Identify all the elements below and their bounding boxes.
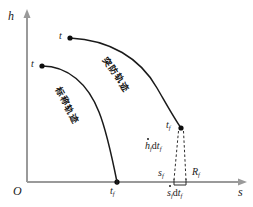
x-axis (27, 179, 247, 186)
upper-curve-tf-label: tf (166, 120, 171, 131)
tf-axis-subscript: f (113, 190, 115, 197)
s-f-subscript: f (162, 172, 164, 179)
y-axis (24, 9, 31, 182)
marker-upper-end-tf (178, 125, 183, 130)
tf-upper-subscript: f (169, 124, 171, 131)
dashed-projection-lines (174, 131, 186, 180)
nominal-trajectory-curve (42, 66, 117, 182)
R-f-subscript: f (198, 171, 200, 178)
figure-canvas: h s O 突防轨迹 标称轨迹 t t tf tf hfdtf sfdtf sf… (0, 0, 253, 207)
diagram-svg (0, 0, 253, 207)
s-f-label: sf (158, 168, 164, 179)
s-dot-base: s (167, 188, 171, 198)
h-dot-dt-label: hfdtf (145, 141, 161, 152)
s-dot-t-subscript: f (181, 192, 183, 199)
marker-lower-start (39, 63, 44, 68)
s-dot-dt-label: sfdtf (167, 188, 182, 199)
h-dot-t-subscript: f (160, 145, 162, 152)
upper-curve-start-label: t (59, 31, 62, 41)
R-f-label: Rf (192, 167, 200, 178)
marker-upper-start (67, 35, 72, 40)
y-axis-label: h (8, 10, 14, 22)
axis-tf-label: tf (110, 186, 115, 197)
x-axis-label: s (238, 186, 243, 198)
h-dot-base: h (145, 141, 150, 151)
origin-label: O (13, 185, 22, 197)
lower-curve-start-label: t (31, 59, 34, 69)
